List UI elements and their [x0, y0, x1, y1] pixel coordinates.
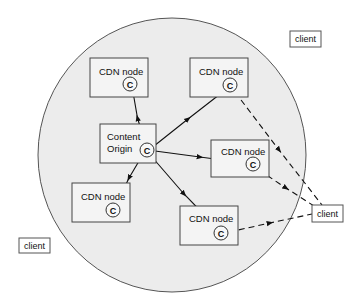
- cdn-node-box: [180, 206, 238, 245]
- cdn-node-box: [190, 58, 248, 97]
- client-label: client: [24, 241, 46, 251]
- cdn-node-top-left[interactable]: CDN node C: [90, 58, 148, 97]
- origin-label-line1: Content: [107, 131, 141, 142]
- cdn-diagram: Content Origin C CDN node C CDN node C C…: [0, 0, 359, 307]
- cdn-node-label: CDN node: [199, 66, 243, 77]
- cache-label: C: [218, 229, 225, 239]
- content-origin[interactable]: Content Origin C: [100, 124, 156, 163]
- cache-label: C: [110, 206, 117, 216]
- cdn-node-middle-right[interactable]: CDN node C: [211, 140, 269, 177]
- cdn-node-label: CDN node: [81, 191, 125, 202]
- cdn-node-top-right[interactable]: CDN node C: [190, 58, 248, 97]
- cache-label: C: [127, 80, 134, 90]
- client-label: client: [295, 34, 317, 44]
- origin-cache-label: C: [144, 146, 151, 156]
- cdn-node-label: CDN node: [221, 146, 265, 157]
- cdn-node-bottom-center[interactable]: CDN node C: [180, 206, 238, 245]
- cdn-node-label: CDN node: [189, 213, 233, 224]
- client-top-right[interactable]: client: [290, 31, 321, 47]
- cdn-node-box: [72, 183, 130, 222]
- cache-label: C: [250, 160, 257, 170]
- cdn-node-label: CDN node: [99, 66, 143, 77]
- cache-label: C: [227, 81, 234, 91]
- cdn-node-bottom-left[interactable]: CDN node C: [72, 183, 130, 222]
- client-bottom-left[interactable]: client: [19, 238, 50, 253]
- client-label: client: [317, 209, 339, 219]
- cdn-node-box: [90, 58, 148, 97]
- client-right[interactable]: client: [312, 205, 343, 222]
- origin-label-line2: Origin: [107, 143, 132, 154]
